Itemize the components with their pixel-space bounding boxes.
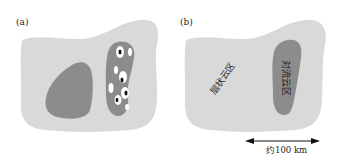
convective-region-label: 对流云区 <box>281 60 292 96</box>
panel-a: (a) <box>16 17 158 132</box>
panel-b-outer-cloud <box>185 20 326 132</box>
arrow-left-icon <box>245 138 254 144</box>
scale-bar-label: 约100 km <box>266 145 307 155</box>
panel-b-label: (b) <box>180 17 193 27</box>
panel-a-label: (a) <box>16 17 28 27</box>
panel-b: (b) 层状云区 对流云区 <box>180 17 326 132</box>
scale-bar: 约100 km <box>245 138 320 155</box>
cloud-diagram: (a) (b) 层状云区 对流云区 约100 km <box>0 0 341 163</box>
arrow-right-icon <box>311 138 320 144</box>
